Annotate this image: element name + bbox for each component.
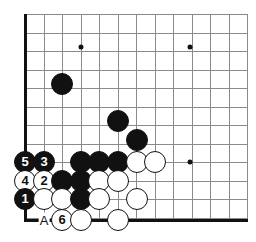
stone-white: [107, 170, 129, 192]
star-point: [188, 45, 193, 50]
stone-move-number: 1: [21, 192, 28, 205]
stone-white: [144, 151, 166, 173]
stone-move-number: 2: [40, 174, 47, 187]
point-label-a: A: [39, 213, 50, 228]
grid-line-horizontal: [25, 70, 247, 71]
stone-black: [107, 110, 129, 132]
stone-move-number: 6: [58, 213, 65, 226]
star-point: [188, 160, 193, 165]
grid-line-horizontal: [25, 107, 247, 108]
star-point: [79, 45, 84, 50]
stone-white: [70, 209, 92, 231]
grid-line-vertical: [173, 14, 174, 220]
stone-white: [126, 188, 148, 210]
grid-line-vertical: [210, 14, 211, 220]
stone-black: [126, 129, 148, 151]
stone-move-number: 5: [21, 155, 28, 168]
grid-line-vertical: [247, 14, 248, 220]
grid-line-horizontal: [25, 14, 247, 15]
grid-line-horizontal: [25, 51, 247, 52]
stone-move-number: 4: [21, 174, 28, 187]
stone-white: [88, 188, 110, 210]
stone-move-number: 3: [40, 155, 47, 168]
grid-line-horizontal: [25, 33, 247, 34]
go-board-diagram: 534216 A: [0, 0, 256, 242]
grid-line-vertical: [155, 14, 156, 220]
grid-line-horizontal: [25, 125, 247, 126]
stone-black: [51, 73, 73, 95]
stone-white: [107, 209, 129, 231]
grid-line-vertical: [229, 14, 230, 220]
